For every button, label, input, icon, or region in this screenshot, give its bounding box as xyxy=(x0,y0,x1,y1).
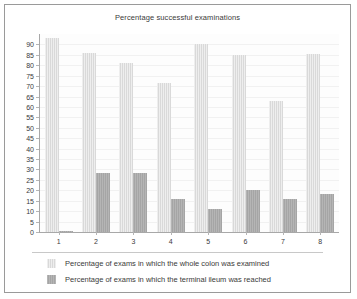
x-axis-tick xyxy=(246,232,247,235)
x-axis-tick-label: 5 xyxy=(206,238,210,245)
chart-title: Percentage successful examinations xyxy=(5,13,350,22)
y-axis-tick-label: 15 xyxy=(26,197,34,204)
bar xyxy=(283,199,297,232)
bar xyxy=(133,173,147,232)
x-axis-tick-label: 7 xyxy=(281,238,285,245)
plot-area: 051015202530354045505560657075808590 123… xyxy=(40,34,339,232)
bar xyxy=(208,209,222,232)
x-axis-tick-label: 1 xyxy=(57,238,61,245)
bar xyxy=(45,38,59,232)
bar-group xyxy=(190,34,227,232)
x-axis-line xyxy=(39,232,339,233)
y-axis-tick-label: 55 xyxy=(26,114,34,121)
legend-separator xyxy=(32,252,323,253)
legend-item-terminal-ileum: Percentage of exams in which the termina… xyxy=(47,275,271,284)
legend-label-whole-colon: Percentage of exams in which the whole c… xyxy=(65,259,269,268)
y-axis-tick-label: 0 xyxy=(30,229,34,236)
y-axis-tick-label: 50 xyxy=(26,124,34,131)
y-axis-tick-label: 85 xyxy=(26,51,34,58)
x-axis-tick-label: 4 xyxy=(169,238,173,245)
bar-group xyxy=(302,34,339,232)
bar-group xyxy=(77,34,114,232)
y-axis-tick-label: 5 xyxy=(30,218,34,225)
y-axis-tick-label: 25 xyxy=(26,176,34,183)
x-axis-tick xyxy=(208,232,209,235)
y-axis-tick-label: 10 xyxy=(26,208,34,215)
bar xyxy=(246,190,260,232)
y-axis-tick-label: 60 xyxy=(26,103,34,110)
y-axis-tick-label: 70 xyxy=(26,83,34,90)
x-axis-tick xyxy=(96,232,97,235)
y-axis-tick-label: 45 xyxy=(26,135,34,142)
bar xyxy=(194,44,208,232)
bar xyxy=(232,55,246,232)
y-axis-tick-label: 30 xyxy=(26,166,34,173)
bar xyxy=(157,83,171,232)
y-axis-tick-label: 80 xyxy=(26,62,34,69)
y-axis-tick-label: 90 xyxy=(26,41,34,48)
bar xyxy=(306,54,320,232)
bar xyxy=(82,53,96,232)
x-axis-tick-label: 8 xyxy=(318,238,322,245)
x-axis-tick-label: 2 xyxy=(94,238,98,245)
y-axis-tick-label: 65 xyxy=(26,93,34,100)
bar xyxy=(171,199,185,232)
x-axis-tick xyxy=(133,232,134,235)
bar-group xyxy=(227,34,264,232)
bar-group xyxy=(152,34,189,232)
x-axis-tick xyxy=(59,232,60,235)
legend-label-terminal-ileum: Percentage of exams in which the termina… xyxy=(65,275,271,284)
bar xyxy=(119,63,133,232)
x-axis-tick-label: 6 xyxy=(244,238,248,245)
bar xyxy=(96,173,110,232)
bar-group xyxy=(264,34,301,232)
y-axis-tick-label: 35 xyxy=(26,156,34,163)
y-axis-tick-label: 75 xyxy=(26,72,34,79)
bar xyxy=(269,101,283,232)
x-axis-tick xyxy=(320,232,321,235)
legend-swatch-icon-whole-colon xyxy=(47,259,56,268)
chart-frame: Percentage successful examinations 05101… xyxy=(4,4,351,293)
y-axis-tick-label: 20 xyxy=(26,187,34,194)
bar xyxy=(320,194,334,232)
x-axis-tick xyxy=(171,232,172,235)
bar-group xyxy=(115,34,152,232)
x-axis-tick xyxy=(283,232,284,235)
x-axis-tick-label: 3 xyxy=(131,238,135,245)
bar xyxy=(59,231,73,232)
legend-swatch-icon-terminal-ileum xyxy=(47,275,56,284)
legend-item-whole-colon: Percentage of exams in which the whole c… xyxy=(47,259,269,268)
bar-group xyxy=(40,34,77,232)
y-axis-tick-label: 40 xyxy=(26,145,34,152)
